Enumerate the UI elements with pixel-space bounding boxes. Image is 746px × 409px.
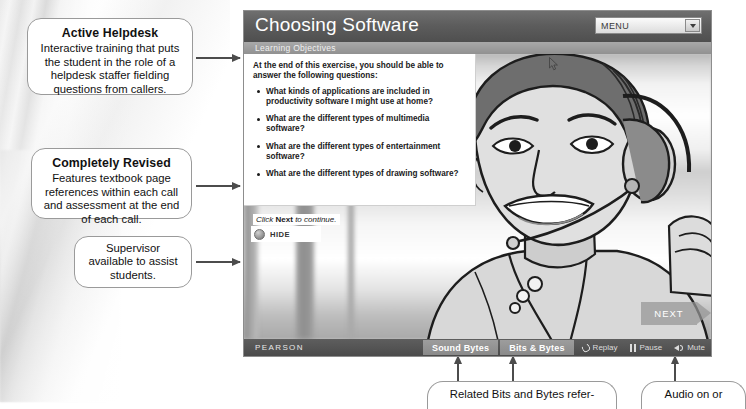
pause-icon [630, 344, 637, 352]
mute-button[interactable]: Mute [668, 343, 711, 352]
hide-button[interactable]: HIDE [251, 226, 321, 242]
mute-button-label: Mute [687, 343, 705, 352]
continue-hint-strong: Next [276, 215, 293, 224]
mouse-cursor-icon [549, 57, 559, 71]
replay-button-label: Replay [593, 343, 618, 352]
callout-active-helpdesk-title: Active Helpdesk [37, 26, 183, 41]
sound-bytes-button[interactable]: Sound Bytes [423, 340, 498, 355]
bits-and-bytes-button[interactable]: Bits & Bytes [500, 340, 573, 355]
callout-active-helpdesk: Active Helpdesk Interactive training tha… [27, 18, 193, 95]
callout-audio: Audio on or [641, 381, 746, 409]
callout-arrow-sound-bytes [457, 363, 459, 382]
app-header: Choosing Software MENU [244, 11, 711, 42]
pause-button[interactable]: Pause [624, 343, 669, 352]
collapse-circle-icon [254, 229, 265, 240]
app-footer-toolbar: PEARSON Sound Bytes Bits & Bytes Replay … [244, 339, 711, 356]
callout-arrow-bits-bytes [512, 363, 514, 382]
callout-arrow-completely-revised [196, 185, 240, 187]
objectives-intro: At the end of this exercise, you should … [253, 61, 466, 82]
callout-bits-and-bytes-body: Related Bits and Bytes refer- [450, 388, 594, 400]
pearson-logo: PEARSON [244, 343, 304, 352]
callout-completely-revised-body: Features textbook page references within… [44, 172, 180, 225]
callout-completely-revised-title: Completely Revised [41, 156, 182, 171]
menu-dropdown[interactable]: MENU [595, 17, 702, 34]
continue-hint-prefix: Click [256, 215, 276, 224]
list-item: What are the different types of multimed… [253, 114, 466, 134]
pause-button-label: Pause [640, 343, 663, 352]
list-item: What kinds of applications are included … [253, 87, 466, 107]
bits-and-bytes-button-label: Bits & Bytes [509, 343, 564, 353]
continue-hint: Click Next to continue. [253, 214, 340, 225]
next-arrow-icon [697, 302, 711, 324]
callout-completely-revised: Completely Revised Features textbook pag… [31, 148, 192, 219]
chevron-down-icon[interactable] [685, 19, 700, 32]
callout-supervisor: Supervisor available to assist students. [74, 236, 192, 288]
callout-arrow-active-helpdesk [196, 57, 240, 59]
callout-supervisor-body: Supervisor available to assist students. [84, 242, 182, 283]
callout-audio-body: Audio on or [665, 388, 723, 400]
callout-arrow-supervisor [196, 261, 240, 263]
speaker-icon [674, 344, 684, 352]
objectives-list: What kinds of applications are included … [253, 87, 466, 179]
replay-button[interactable]: Replay [576, 343, 624, 352]
list-item: What are the different types of entertai… [253, 142, 466, 162]
callout-arrow-audio [674, 363, 676, 382]
app-subtitle: Learning Objectives [244, 42, 711, 54]
next-button-label: NEXT [654, 308, 683, 319]
replay-icon [580, 342, 591, 353]
callout-bits-and-bytes: Related Bits and Bytes refer- [427, 381, 617, 409]
lesson-stage: At the end of this exercise, you should … [244, 54, 711, 339]
learning-objectives-panel: At the end of this exercise, you should … [244, 54, 476, 206]
callout-active-helpdesk-body: Interactive training that puts the stude… [41, 42, 180, 95]
application-window: Choosing Software MENU Learning Objectiv… [243, 10, 712, 357]
sound-bytes-button-label: Sound Bytes [432, 343, 489, 353]
menu-dropdown-label: MENU [596, 21, 629, 31]
hide-button-label: HIDE [270, 230, 290, 239]
continue-hint-suffix: to continue. [293, 215, 337, 224]
list-item: What are the different types of drawing … [253, 169, 466, 179]
next-button[interactable]: NEXT [641, 302, 697, 325]
app-title: Choosing Software [255, 14, 419, 36]
